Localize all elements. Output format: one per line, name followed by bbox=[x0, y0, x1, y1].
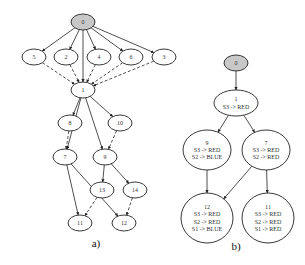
node-a-3: 3 bbox=[152, 49, 176, 65]
graph-panel-b: 01S3 -> RED9S3 -> REDS2 -> BLUE7S3 -> RE… bbox=[181, 55, 294, 253]
node-label: S2 -> RED bbox=[255, 219, 282, 225]
node-label: 14 bbox=[132, 187, 138, 193]
edge-a-9-to-14 bbox=[111, 164, 129, 183]
edge-a-0-to-2 bbox=[70, 30, 80, 50]
edge-a-9-to-13 bbox=[103, 165, 105, 182]
node-a-14: 14 bbox=[123, 182, 147, 198]
node-label: 12 bbox=[204, 204, 210, 210]
node-label: 3 bbox=[163, 54, 166, 60]
graph-panel-a: 05246318107913141112 a) bbox=[22, 14, 176, 250]
node-label: 5 bbox=[33, 54, 36, 60]
node-label: S2 -> BLUE bbox=[192, 154, 223, 160]
node-label: 12 bbox=[121, 220, 127, 226]
edge-a-0-to-5 bbox=[42, 28, 75, 51]
edge-a-6-to-1 bbox=[91, 63, 122, 85]
edge-a-0-to-3 bbox=[93, 26, 154, 52]
node-label: 10 bbox=[117, 120, 123, 126]
edge-b-1-to-9 bbox=[218, 115, 229, 132]
node-label: S3 -> RED bbox=[255, 211, 282, 217]
node-label: S1 -> BLUE bbox=[192, 226, 223, 232]
node-b-1: 1S3 -> RED bbox=[214, 90, 258, 116]
node-a-8: 8 bbox=[58, 115, 82, 131]
edge-a-5-to-1 bbox=[42, 63, 74, 85]
node-label: S1 -> RED bbox=[255, 226, 282, 232]
edge-a-0-to-6 bbox=[91, 28, 123, 51]
node-label: 7 bbox=[64, 154, 67, 160]
caption-a: a) bbox=[92, 237, 101, 250]
node-a-11: 11 bbox=[68, 215, 92, 231]
node-b-9: 9S3 -> REDS2 -> BLUE bbox=[183, 130, 231, 170]
node-label: 1 bbox=[82, 87, 85, 93]
node-label: 4 bbox=[98, 54, 101, 60]
node-a-2: 2 bbox=[54, 49, 78, 65]
edge-a-0-to-4 bbox=[87, 30, 96, 50]
node-a-0: 0 bbox=[71, 14, 95, 30]
node-label: 13 bbox=[99, 187, 105, 193]
node-label: S2 -> RED bbox=[253, 154, 280, 160]
node-a-1: 1 bbox=[71, 82, 95, 98]
node-a-9: 9 bbox=[93, 149, 117, 165]
node-label: 11 bbox=[265, 204, 271, 210]
nodes-b: 01S3 -> RED9S3 -> REDS2 -> BLUE7S3 -> RE… bbox=[181, 55, 294, 243]
node-b-0: 0 bbox=[224, 55, 248, 71]
node-label: 8 bbox=[69, 120, 72, 126]
node-label: S3 -> RED bbox=[194, 147, 221, 153]
edge-a-7-to-11 bbox=[67, 165, 78, 215]
edge-a-14-to-12 bbox=[127, 198, 133, 215]
node-a-7: 7 bbox=[53, 149, 77, 165]
node-a-5: 5 bbox=[22, 49, 46, 65]
edge-b-7-to-12 bbox=[224, 166, 252, 199]
edge-a-13-to-11 bbox=[85, 197, 97, 215]
node-b-12: 12S3 -> REDS2 -> REDS1 -> BLUE bbox=[181, 193, 233, 243]
edge-a-1-to-10 bbox=[90, 96, 113, 116]
node-label: S2 -> RED bbox=[194, 219, 221, 225]
node-label: 1 bbox=[235, 96, 238, 102]
edge-a-4-to-1 bbox=[87, 65, 96, 83]
edge-a-2-to-1 bbox=[70, 65, 79, 83]
node-a-13: 13 bbox=[90, 182, 114, 198]
node-a-4: 4 bbox=[87, 49, 111, 65]
node-a-12: 12 bbox=[112, 215, 136, 231]
node-a-6: 6 bbox=[119, 49, 143, 65]
node-label: S3 -> RED bbox=[223, 104, 250, 110]
node-b-7: 7S3 -> REDS2 -> RED bbox=[242, 130, 290, 170]
node-b-11: 11S3 -> REDS2 -> REDS1 -> RED bbox=[242, 193, 294, 243]
node-label: 2 bbox=[65, 54, 68, 60]
node-label: 0 bbox=[82, 19, 85, 25]
edge-b-1-to-7 bbox=[244, 115, 255, 132]
figure-canvas: 05246318107913141112 a) 01S3 -> RED9S3 -… bbox=[0, 0, 305, 265]
node-label: 9 bbox=[104, 154, 107, 160]
node-a-10: 10 bbox=[108, 115, 132, 131]
caption-b: b) bbox=[231, 240, 241, 253]
node-label: 9 bbox=[206, 140, 209, 146]
node-label: 11 bbox=[77, 220, 83, 226]
node-label: 0 bbox=[235, 60, 238, 66]
nodes-a: 05246318107913141112 bbox=[22, 14, 176, 231]
node-label: 6 bbox=[130, 54, 133, 60]
edge-b-7-to-11 bbox=[267, 170, 268, 193]
node-label: 7 bbox=[265, 140, 268, 146]
node-label: S3 -> RED bbox=[253, 147, 280, 153]
edge-a-10-to-9 bbox=[108, 131, 116, 150]
node-label: S3 -> RED bbox=[194, 211, 221, 217]
